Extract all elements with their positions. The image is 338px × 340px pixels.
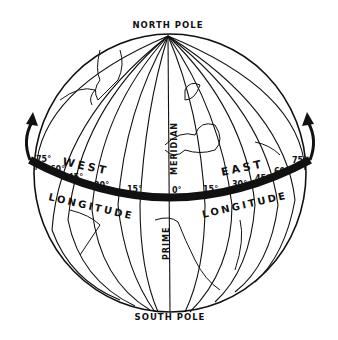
arrow-right-icon — [302, 112, 314, 126]
deg-w15: 15° — [127, 185, 142, 194]
meridian-label: MERIDIAN — [170, 122, 179, 175]
deg-w30: 30° — [94, 181, 109, 190]
globe-diagram: NORTH POLE SOUTH POLE WEST EAST LONGITUD… — [0, 0, 338, 340]
deg-e30: 30° — [232, 180, 247, 189]
arrow-left-icon — [26, 112, 38, 126]
north-pole-label: NORTH POLE — [132, 20, 203, 30]
deg-e15: 15° — [203, 185, 218, 194]
prime-label: PRIME — [162, 227, 171, 260]
deg-0: 0° — [172, 186, 182, 195]
deg-e45: 45° — [255, 174, 270, 183]
deg-w75: 75° — [36, 155, 51, 164]
deg-e60: 60° — [274, 167, 289, 176]
deg-w60: 60° — [50, 165, 65, 174]
south-pole-label: SOUTH POLE — [135, 312, 206, 322]
deg-w45: 45° — [68, 173, 83, 182]
deg-e75: 75° — [292, 156, 307, 165]
